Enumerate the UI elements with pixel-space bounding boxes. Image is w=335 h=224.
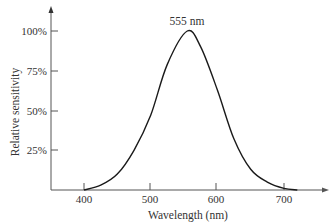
- sensitivity-chart: 100% 75% 50% 25% 400 500 600 700 Wavelen…: [0, 0, 335, 224]
- y-axis-label: Relative sensitivity: [9, 68, 22, 157]
- y-tick-label: 50%: [27, 105, 47, 117]
- x-axis-arrow-icon: [322, 188, 329, 193]
- x-ticks: [84, 183, 284, 190]
- x-axis-label: Wavelength (nm): [148, 209, 228, 222]
- x-tick-label: 700: [276, 193, 293, 205]
- y-tick-labels: 100% 75% 50% 25%: [21, 25, 47, 156]
- sensitivity-curve: [84, 30, 297, 190]
- x-tick-label: 500: [142, 193, 159, 205]
- x-tick-label: 600: [208, 193, 225, 205]
- x-tick-labels: 400 500 600 700: [76, 193, 293, 205]
- peak-annotation: 555 nm: [170, 15, 205, 27]
- x-tick-label: 400: [76, 193, 93, 205]
- y-axis-arrow-icon: [49, 6, 54, 13]
- y-tick-label: 75%: [27, 65, 47, 77]
- y-tick-label: 100%: [21, 25, 47, 37]
- y-tick-label: 25%: [27, 144, 47, 156]
- axes: [51, 12, 323, 190]
- y-ticks: [51, 31, 58, 150]
